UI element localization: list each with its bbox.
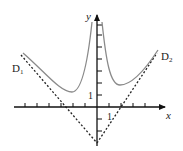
x-axis-label: x (165, 109, 171, 121)
curve-right-branch (102, 22, 158, 85)
y-axis-label: y (85, 10, 91, 22)
asymptote-d1 (21, 55, 97, 143)
d1-label: D1 (12, 62, 24, 76)
unit-x-label: 1 (107, 111, 112, 122)
curve-left-branch (23, 22, 92, 92)
y-axis-ticks (97, 25, 102, 131)
y-axis (97, 15, 102, 146)
d2-label: D2 (161, 50, 173, 64)
unit-y-label: 1 (88, 90, 93, 101)
x-axis (14, 103, 165, 107)
function-graph: y x 1 1 D1 D2 (0, 0, 183, 151)
asymptote-d2 (97, 53, 157, 143)
